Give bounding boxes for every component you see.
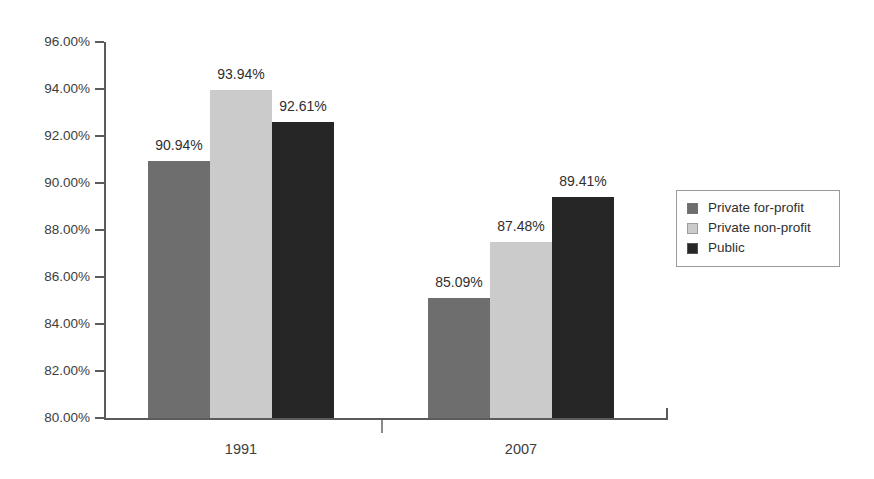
legend-item-label: Public: [708, 241, 745, 255]
legend-item: Public: [677, 238, 839, 258]
legend-swatch-icon: [687, 223, 698, 234]
y-axis-tick-label: 94.00%: [4, 82, 90, 96]
y-axis-tick: [95, 323, 104, 325]
y-axis-tick-label: 86.00%: [4, 270, 90, 284]
bar: [490, 242, 552, 418]
legend-swatch-icon: [687, 243, 698, 254]
y-axis-tick-label: 82.00%: [4, 364, 90, 378]
category-label: 1991: [118, 442, 364, 457]
bar: [210, 90, 272, 418]
y-axis-tick: [95, 276, 104, 278]
y-axis-tick-label: 92.00%: [4, 129, 90, 143]
y-axis-tick-label: 96.00%: [4, 35, 90, 49]
legend-item: Private for-profit: [677, 198, 839, 218]
legend-item-label: Private non-profit: [708, 221, 811, 235]
y-axis-tick: [95, 41, 104, 43]
bar: [272, 122, 334, 418]
y-axis-tick-label: 80.00%: [4, 411, 90, 425]
y-axis-tick: [95, 135, 104, 137]
legend: Private for-profitPrivate non-profitPubl…: [676, 190, 840, 267]
bar-value-label: 89.41%: [540, 174, 626, 188]
category-separator-tick: [381, 420, 383, 433]
y-axis-tick-label: 88.00%: [4, 223, 90, 237]
y-axis-line: [104, 42, 106, 420]
y-axis-tick: [95, 417, 104, 419]
bar: [552, 197, 614, 418]
bar: [428, 298, 490, 418]
category-label: 2007: [398, 442, 644, 457]
legend-item-label: Private for-profit: [708, 201, 804, 215]
bar-value-label: 93.94%: [198, 67, 284, 81]
legend-swatch-icon: [687, 203, 698, 214]
x-axis-line: [104, 418, 668, 420]
x-axis-end-tick: [666, 408, 668, 420]
y-axis-tick: [95, 229, 104, 231]
y-axis-tick-label: 90.00%: [4, 176, 90, 190]
bar-chart: 96.00%94.00%92.00%90.00%88.00%86.00%84.0…: [0, 0, 874, 479]
bar-value-label: 92.61%: [260, 99, 346, 113]
y-axis-tick: [95, 182, 104, 184]
legend-item: Private non-profit: [677, 218, 839, 238]
y-axis-tick-label: 84.00%: [4, 317, 90, 331]
bar: [148, 161, 210, 418]
y-axis-tick: [95, 370, 104, 372]
y-axis-tick: [95, 88, 104, 90]
